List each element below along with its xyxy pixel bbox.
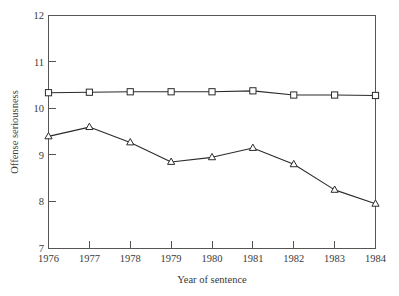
- data-point-series-squares-1979: [168, 89, 174, 95]
- x-tick-group-1984: 1984: [365, 253, 387, 264]
- chart-background: [0, 0, 399, 296]
- chart-page: 12 11 10 9 8 7 1: [0, 0, 399, 296]
- data-point-series-squares-1978: [127, 89, 133, 95]
- x-tick-label-1983: 1983: [324, 253, 345, 264]
- data-point-series-squares-1982: [291, 92, 297, 98]
- x-tick-group-1976: 1976: [38, 253, 59, 264]
- data-point-series-squares-1976: [45, 90, 51, 96]
- x-tick-label-1977: 1977: [79, 253, 100, 264]
- x-tick-label-1984: 1984: [365, 253, 387, 264]
- y-tick-label-7: 7: [39, 243, 44, 254]
- x-tick-label-1981: 1981: [242, 253, 263, 264]
- y-tick-label-12: 12: [34, 10, 45, 21]
- data-point-series-squares-1980: [209, 89, 215, 95]
- x-axis-title: Year of sentence: [177, 274, 247, 285]
- y-tick-label-8: 8: [39, 196, 44, 207]
- data-point-series-squares-1981: [250, 88, 256, 94]
- y-tick-label-11: 11: [34, 57, 44, 68]
- data-point-series-squares-1977: [86, 89, 92, 95]
- x-tick-label-1980: 1980: [202, 253, 223, 264]
- x-tick-label-1976: 1976: [38, 253, 59, 264]
- y-tick-group-7: 7: [39, 243, 44, 254]
- x-tick-label-1979: 1979: [161, 253, 182, 264]
- offense-seriousness-line-chart: 12 11 10 9 8 7 1: [0, 0, 399, 296]
- data-point-series-squares-1984: [372, 92, 378, 98]
- x-tick-label-1978: 1978: [120, 253, 141, 264]
- y-axis-title: Offense seriousness: [9, 90, 20, 174]
- x-tick-label-1982: 1982: [283, 253, 304, 264]
- y-tick-group-12: 12: [34, 10, 45, 21]
- y-tick-label-9: 9: [39, 150, 44, 161]
- y-tick-label-10: 10: [34, 103, 45, 114]
- data-point-series-squares-1983: [332, 92, 338, 98]
